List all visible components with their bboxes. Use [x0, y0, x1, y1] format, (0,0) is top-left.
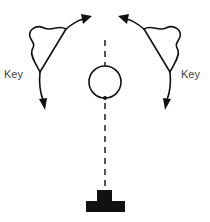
right-upper-arrowhead-icon — [118, 14, 129, 24]
left-upper-arrowhead-icon — [81, 14, 92, 24]
right-lobe-outline — [144, 27, 180, 72]
left-diagonal-line — [40, 29, 66, 72]
diagram-canvas: Key Key — [0, 0, 210, 222]
left-lobe-outline — [30, 27, 66, 72]
right-key-label: Key — [181, 68, 200, 80]
center-circle-bottom-dot — [103, 96, 107, 100]
right-lower-arrow-line — [167, 72, 170, 100]
right-diagonal-line — [144, 29, 170, 72]
base-block-bottom — [86, 201, 125, 212]
right-upper-arrow-line — [126, 19, 144, 29]
center-circle — [89, 66, 121, 98]
left-key-shape: Key — [4, 14, 92, 110]
left-lower-arrow-line — [40, 72, 43, 100]
right-key-shape: Key — [118, 14, 200, 110]
left-upper-arrow-line — [66, 19, 84, 29]
left-lower-arrowhead-icon — [39, 98, 47, 110]
base-block — [86, 190, 125, 212]
base-block-top — [97, 190, 112, 202]
right-lower-arrowhead-icon — [163, 98, 171, 110]
left-key-label: Key — [4, 68, 23, 80]
